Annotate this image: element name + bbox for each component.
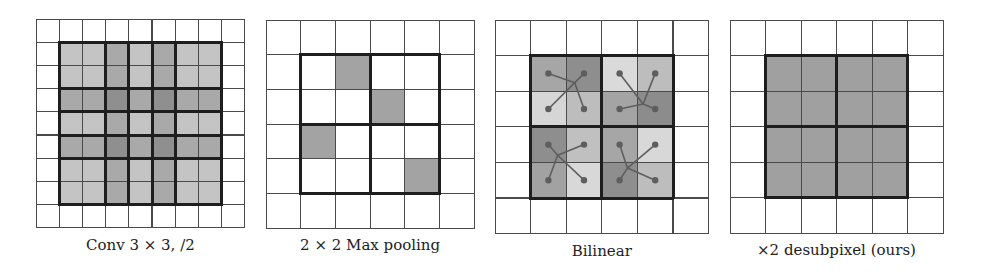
grid-cell: [152, 111, 176, 135]
grid-cell: [801, 126, 838, 163]
grid-cell: [439, 89, 475, 125]
grid-cell: [370, 20, 406, 56]
grid-cell: [59, 204, 83, 228]
grid-cell: [404, 124, 440, 160]
grid-cell: [765, 197, 802, 234]
grid-cell: [82, 65, 106, 89]
grid-cell: [266, 89, 302, 125]
grid-cell: [801, 20, 838, 57]
grid-cell: [198, 111, 222, 135]
grid-cell: [105, 158, 129, 182]
grid-cell: [105, 135, 129, 159]
grid-cell: [82, 135, 106, 159]
grid-cell: [907, 126, 944, 163]
grid-cell: [152, 135, 176, 159]
bold-gridline: [906, 54, 909, 199]
grid-cell: [300, 158, 336, 194]
grid-cell: [105, 181, 129, 205]
grid-cell: [730, 20, 767, 57]
grid-cell: [82, 158, 106, 182]
grid-cell: [801, 55, 838, 92]
maxpool-grid: [266, 20, 474, 228]
bold-gridline: [299, 123, 441, 126]
grid-cell: [128, 181, 152, 205]
bold-gridline: [764, 196, 909, 199]
grid-cell: [836, 126, 873, 163]
grid-cell: [198, 19, 222, 43]
grid-cell: [198, 42, 222, 66]
grid-cell: [765, 55, 802, 92]
grid-cell: [221, 181, 245, 205]
grid-cell: [36, 158, 60, 182]
grid-cell: [105, 19, 129, 43]
grid-cell: [836, 55, 873, 92]
grid-cell: [907, 197, 944, 234]
grid-cell: [266, 124, 302, 160]
grid-cell: [439, 20, 475, 56]
grid-cell: [221, 42, 245, 66]
grid-cell: [300, 20, 336, 56]
grid-cell: [128, 158, 152, 182]
grid-cell: [801, 162, 838, 199]
grid-cell: [404, 158, 440, 194]
bold-gridline: [58, 87, 223, 90]
grid-cell: [59, 88, 83, 112]
grid-cell: [872, 20, 909, 57]
grid-cell: [105, 204, 129, 228]
grid-cell: [128, 135, 152, 159]
grid-cell: [370, 89, 406, 125]
grid-cell: [439, 158, 475, 194]
bold-gridline: [58, 157, 223, 160]
caption-conv: Conv 3 × 3, /2: [36, 236, 245, 254]
grid-cell: [59, 158, 83, 182]
grid-cell: [765, 162, 802, 199]
grid-cell: [59, 135, 83, 159]
grid-cell: [872, 55, 909, 92]
grid-cell: [836, 162, 873, 199]
grid-cell: [765, 91, 802, 128]
bold-gridline: [58, 41, 61, 206]
grid-cell: [175, 111, 199, 135]
grid-cell: [105, 88, 129, 112]
grid-cell: [335, 54, 371, 90]
grid-cell: [36, 135, 60, 159]
grid-cell: [370, 193, 406, 229]
grid-cell: [266, 193, 302, 229]
grid-cell: [175, 65, 199, 89]
grid-cell: [128, 111, 152, 135]
grid-cell: [730, 91, 767, 128]
grid-cell: [198, 204, 222, 228]
grid-cell: [404, 89, 440, 125]
grid-cell: [36, 111, 60, 135]
grid-cell: [730, 162, 767, 199]
grid-cell: [907, 162, 944, 199]
grid-cell: [335, 193, 371, 229]
bold-gridline: [104, 41, 107, 206]
grid-cell: [128, 204, 152, 228]
grid-cell: [404, 193, 440, 229]
grid-cell: [836, 20, 873, 57]
grid-cell: [198, 181, 222, 205]
grid-cell: [152, 19, 176, 43]
bold-gridline: [151, 41, 154, 206]
grid-cell: [36, 181, 60, 205]
grid-cell: [82, 111, 106, 135]
bold-gridline: [220, 41, 223, 206]
grid-cell: [128, 19, 152, 43]
grid-cell: [221, 158, 245, 182]
grid-cell: [152, 158, 176, 182]
grid-cell: [730, 197, 767, 234]
grid-cell: [221, 204, 245, 228]
grid-cell: [872, 126, 909, 163]
grid-cell: [370, 124, 406, 160]
desubpixel-grid: [730, 20, 943, 233]
grid-cell: [765, 20, 802, 57]
grid-cell: [765, 126, 802, 163]
grid-cell: [82, 88, 106, 112]
grid-cell: [335, 20, 371, 56]
grid-cell: [221, 111, 245, 135]
grid-cell: [335, 89, 371, 125]
bold-gridline: [58, 203, 223, 206]
caption-bilinear: Bilinear: [495, 242, 709, 260]
grid-cell: [36, 204, 60, 228]
